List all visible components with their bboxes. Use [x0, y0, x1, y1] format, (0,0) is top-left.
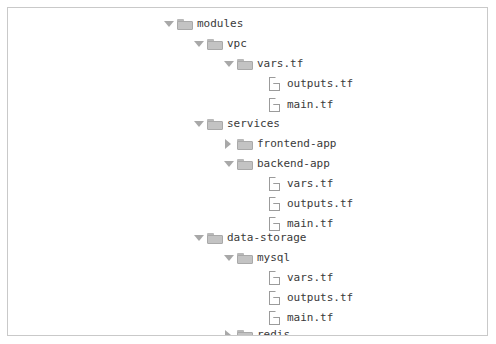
folder-glyph — [177, 19, 193, 30]
tree-row[interactable]: data-storage — [8, 228, 306, 248]
file-glyph — [269, 77, 280, 91]
tree-row[interactable]: vars.tf — [8, 54, 303, 74]
folder-body — [237, 255, 253, 264]
tree-item-label: vars.tf — [287, 174, 333, 194]
folder-open-icon — [236, 248, 255, 268]
folder-glyph — [237, 330, 253, 336]
file-icon — [266, 174, 285, 194]
tree-row[interactable]: vars.tf — [8, 268, 333, 288]
tree-row[interactable]: services — [8, 114, 280, 134]
folder-open-icon — [236, 154, 255, 174]
file-glyph — [269, 98, 280, 112]
tree-item-label: services — [227, 114, 280, 134]
file-glyph — [269, 311, 280, 325]
folder-body — [237, 332, 253, 336]
folder-body — [207, 41, 223, 50]
file-icon — [266, 74, 285, 94]
chevron-right-icon[interactable] — [223, 325, 236, 336]
chevron-down-icon[interactable] — [193, 114, 206, 134]
file-glyph — [269, 177, 280, 191]
tree-item-label: outputs.tf — [287, 288, 353, 308]
folder-body — [237, 141, 253, 150]
file-glyph — [269, 197, 280, 211]
folder-open-icon — [176, 14, 195, 34]
chevron-down-icon[interactable] — [223, 154, 236, 174]
file-icon — [266, 288, 285, 308]
tree-row[interactable]: outputs.tf — [8, 194, 353, 214]
file-icon — [266, 95, 285, 115]
tree-item-label: outputs.tf — [287, 74, 353, 94]
folder-closed-icon — [236, 325, 255, 336]
file-icon — [266, 268, 285, 288]
tree-row[interactable]: frontend-app — [8, 134, 336, 154]
folder-open-icon — [236, 54, 255, 74]
folder-closed-icon — [236, 134, 255, 154]
folder-body — [177, 21, 193, 30]
folder-glyph — [237, 159, 253, 170]
tree-item-label: backend-app — [257, 154, 330, 174]
folder-glyph — [237, 139, 253, 150]
tree-row[interactable]: vpc — [8, 34, 247, 54]
twisty-spacer — [253, 95, 266, 115]
chevron-down-icon[interactable] — [193, 34, 206, 54]
twisty-spacer — [253, 194, 266, 214]
folder-glyph — [237, 59, 253, 70]
twisty-spacer — [253, 174, 266, 194]
tree-row[interactable]: outputs.tf — [8, 288, 353, 308]
tree-row[interactable]: main.tf — [8, 95, 333, 115]
tree-item-label: vpc — [227, 34, 247, 54]
tree-item-label: redis — [257, 325, 290, 336]
tree-row[interactable]: outputs.tf — [8, 74, 353, 94]
tree-row[interactable]: mysql — [8, 248, 290, 268]
tree-item-label: main.tf — [287, 308, 333, 328]
tree-row[interactable]: vars.tf — [8, 174, 333, 194]
chevron-down-icon[interactable] — [223, 248, 236, 268]
tree-item-label: mysql — [257, 248, 290, 268]
tree-item-label: vars.tf — [287, 268, 333, 288]
folder-body — [207, 235, 223, 244]
twisty-spacer — [253, 268, 266, 288]
folder-glyph — [207, 233, 223, 244]
tree-row[interactable]: backend-app — [8, 154, 330, 174]
tree-item-label: main.tf — [287, 95, 333, 115]
twisty-spacer — [253, 74, 266, 94]
twisty-spacer — [253, 288, 266, 308]
tree-item-label: frontend-app — [257, 134, 336, 154]
tree-item-label: vars.tf — [257, 54, 303, 74]
folder-body — [237, 61, 253, 70]
chevron-down-icon[interactable] — [223, 54, 236, 74]
folder-glyph — [207, 39, 223, 50]
tree-row[interactable]: modules — [8, 14, 243, 34]
folder-open-icon — [206, 34, 225, 54]
file-tree-panel: modulesvpcvars.tfoutputs.tfmain.tfservic… — [7, 7, 488, 336]
folder-body — [237, 161, 253, 170]
file-icon — [266, 194, 285, 214]
folder-glyph — [237, 253, 253, 264]
folder-body — [207, 121, 223, 130]
file-glyph — [269, 271, 280, 285]
chevron-down-icon[interactable] — [163, 14, 176, 34]
tree-item-label: modules — [197, 14, 243, 34]
chevron-down-icon[interactable] — [193, 228, 206, 248]
file-glyph — [269, 291, 280, 305]
tree-item-label: data-storage — [227, 228, 306, 248]
folder-open-icon — [206, 228, 225, 248]
folder-open-icon — [206, 114, 225, 134]
tree-item-label: outputs.tf — [287, 194, 353, 214]
screen-root: modulesvpcvars.tfoutputs.tfmain.tfservic… — [0, 0, 496, 344]
tree-row[interactable]: redis — [8, 325, 290, 336]
folder-glyph — [207, 119, 223, 130]
chevron-right-icon[interactable] — [223, 134, 236, 154]
